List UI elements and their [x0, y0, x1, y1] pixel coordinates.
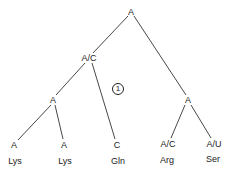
leaf-3-codon: C: [114, 141, 121, 150]
leaf-1-amino-acid: Lys: [8, 157, 22, 166]
leaf-5-amino-acid: Ser: [206, 155, 220, 164]
edge-leftsub-leaf1: [18, 105, 51, 140]
edge-leftsub-leaf2: [55, 105, 63, 139]
leaf-2-amino-acid: Lys: [58, 157, 72, 166]
annotation-circle: 1: [112, 83, 124, 95]
edge-root-right: [134, 16, 186, 95]
node-left-sub: A: [50, 96, 56, 105]
leaf-5-codon: A/U: [206, 140, 221, 149]
leaf-1-codon: A: [11, 141, 17, 150]
node-right-internal: A: [185, 96, 191, 105]
leaf-4-amino-acid: Arg: [160, 156, 174, 165]
leaf-3-amino-acid: Gln: [111, 157, 125, 166]
edge-root-left: [93, 16, 128, 53]
edge-rightinternal-leaf4: [171, 105, 185, 138]
node-left-internal: A/C: [81, 54, 96, 63]
edge-rightinternal-leaf5: [191, 105, 211, 138]
node-root: A: [128, 8, 134, 17]
leaf-2-codon: A: [61, 141, 67, 150]
leaf-4-codon: A/C: [160, 140, 175, 149]
edge-leftinternal-leaf3: [92, 63, 115, 139]
edge-leftinternal-leftsub: [56, 63, 85, 95]
